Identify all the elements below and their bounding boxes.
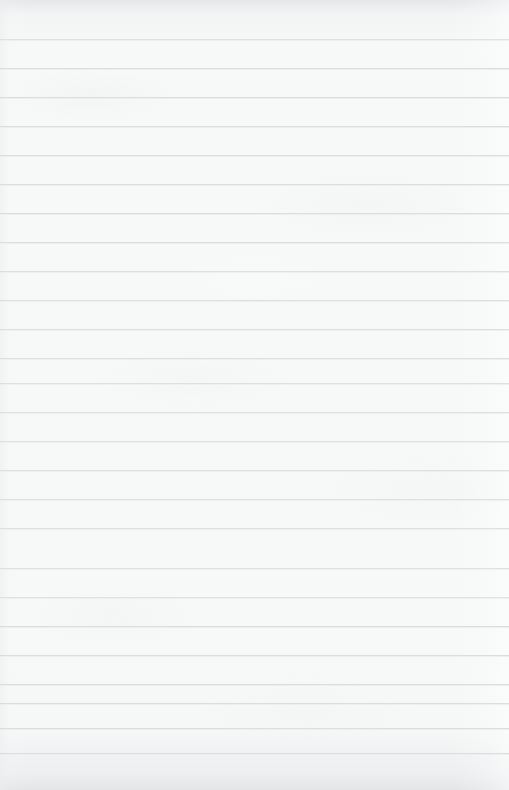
rule-line xyxy=(0,626,509,627)
rule-line xyxy=(0,271,509,272)
rule-line xyxy=(0,728,509,729)
rule-line xyxy=(0,655,509,656)
paper-vignette xyxy=(0,0,509,790)
rule-line xyxy=(0,213,509,214)
rule-line xyxy=(0,568,509,569)
ruled-lines xyxy=(0,0,509,790)
rule-line xyxy=(0,383,509,384)
rule-line xyxy=(0,753,509,754)
rule-line xyxy=(0,68,509,69)
rule-line xyxy=(0,412,509,413)
rule-line xyxy=(0,597,509,598)
paper-texture xyxy=(0,0,509,790)
ruled-paper-page: Blank ruled notebook page xyxy=(0,0,509,790)
rule-line xyxy=(0,499,509,500)
paper-edge-shading xyxy=(0,0,509,790)
rule-line xyxy=(0,441,509,442)
rule-line xyxy=(0,329,509,330)
rule-line xyxy=(0,528,509,529)
rule-line xyxy=(0,126,509,127)
rule-line xyxy=(0,97,509,98)
rule-line xyxy=(0,242,509,243)
rule-line xyxy=(0,358,509,359)
rule-line xyxy=(0,470,509,471)
rule-line xyxy=(0,155,509,156)
rule-line xyxy=(0,300,509,301)
rule-line xyxy=(0,684,509,685)
rule-line xyxy=(0,184,509,185)
rule-line xyxy=(0,39,509,40)
rule-line xyxy=(0,703,509,704)
